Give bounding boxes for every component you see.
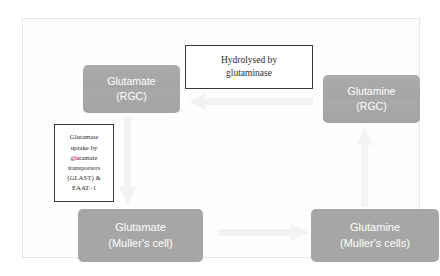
node-glutamate-muller-cell: Glutamate (Muller's cell) xyxy=(78,209,203,262)
node-label-secondary: (Muller's cell) xyxy=(108,236,172,252)
note-line: (GLAST) & xyxy=(67,173,100,183)
arrow-up-icon xyxy=(356,127,373,207)
node-glutamine-muller-cells: Glutamine (Muller's cells) xyxy=(311,209,439,262)
note-line: uptake by xyxy=(71,143,98,153)
arrow-right-icon xyxy=(219,224,309,241)
note-line: glutaminase xyxy=(226,67,272,80)
node-label-secondary: (Muller's cells) xyxy=(340,236,410,252)
note-line: EAAT–1 xyxy=(72,183,96,193)
node-label-primary: Glutamate xyxy=(115,220,166,236)
arrow-left-icon xyxy=(189,93,313,110)
node-glutamine-rgc: Glutamine (RGC) xyxy=(323,75,420,123)
note-hydrolysed-by-glutaminase: Hydrolysed by glutaminase xyxy=(185,45,313,89)
note-line: transporters xyxy=(68,163,100,173)
node-glutamate-rgc: Glutamate (RGC) xyxy=(83,65,180,113)
note-line: Glutamate xyxy=(70,132,98,142)
node-label-primary: Glutamine xyxy=(348,84,396,99)
diagram-frame: Glutamate (RGC) Glutamine (RGC) Glutamat… xyxy=(22,18,420,258)
node-label-primary: Glutamate xyxy=(107,74,155,89)
note-line: Hydrolysed by xyxy=(221,54,277,67)
node-label-primary: Glutamine xyxy=(350,220,400,236)
node-label-secondary: (RGC) xyxy=(356,99,386,114)
diagram-canvas: Glutamate (RGC) Glutamine (RGC) Glutamat… xyxy=(0,0,440,276)
note-glutamate-uptake: Glutamate uptake by glutamate transporte… xyxy=(54,124,114,202)
arrow-down-icon xyxy=(119,117,136,205)
note-line: glutamate xyxy=(71,153,98,163)
node-label-secondary: (RGC) xyxy=(116,89,146,104)
